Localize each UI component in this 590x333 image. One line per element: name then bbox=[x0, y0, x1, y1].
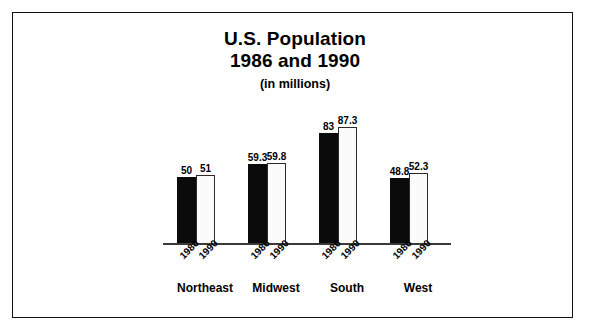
bar-value-label: 87.3 bbox=[338, 115, 357, 126]
bar-midwest-1986: 59.3 bbox=[248, 164, 267, 243]
bar-pair: 50 51 bbox=[177, 110, 233, 243]
bar-value-label: 59.8 bbox=[267, 151, 286, 162]
bar-midwest-1990: 59.8 bbox=[267, 163, 286, 243]
year-labels-south: 1986 1990 bbox=[319, 246, 375, 280]
bar-pair: 59.3 59.8 bbox=[248, 110, 304, 243]
bar-group-west: 48.8 52.3 bbox=[390, 110, 446, 243]
plot-area: 50 51 1986 1990 Northeast 59.3 59.8 bbox=[0, 0, 590, 333]
bar-west-1986: 48.8 bbox=[390, 178, 409, 243]
bar-value-label: 59.3 bbox=[248, 152, 267, 163]
bar-northeast-1986: 50 bbox=[177, 177, 196, 244]
bar-value-label: 51 bbox=[200, 163, 211, 174]
bar-south-1986: 83 bbox=[319, 133, 338, 243]
bar-group-midwest: 59.3 59.8 bbox=[248, 110, 304, 243]
bar-value-label: 83 bbox=[323, 121, 334, 132]
bar-group-south: 83 87.3 bbox=[319, 110, 375, 243]
bar-value-label: 52.3 bbox=[409, 161, 428, 172]
bar-value-label: 50 bbox=[181, 165, 192, 176]
year-labels-northeast: 1986 1990 bbox=[177, 246, 233, 280]
bar-pair: 48.8 52.3 bbox=[390, 110, 446, 243]
year-labels-west: 1986 1990 bbox=[390, 246, 446, 280]
bar-value-label: 48.8 bbox=[390, 166, 409, 177]
chart-figure: U.S. Population 1986 and 1990 (in millio… bbox=[0, 0, 590, 333]
bar-south-1990: 87.3 bbox=[338, 127, 357, 243]
category-label-west: West bbox=[370, 281, 466, 295]
bar-group-northeast: 50 51 bbox=[177, 110, 233, 243]
year-labels-midwest: 1986 1990 bbox=[248, 246, 304, 280]
bar-northeast-1990: 51 bbox=[196, 175, 215, 243]
bar-pair: 83 87.3 bbox=[319, 110, 375, 243]
bar-west-1990: 52.3 bbox=[409, 173, 428, 243]
